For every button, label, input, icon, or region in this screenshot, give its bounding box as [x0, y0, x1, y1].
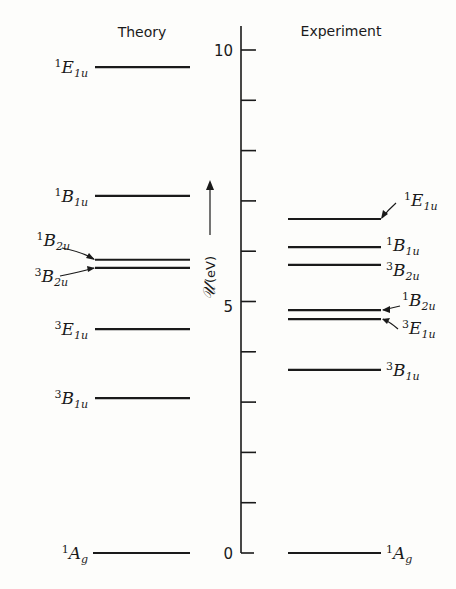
state-label-1B2u: 1B2u: [36, 230, 70, 253]
state-label-3E1u: 3E1u: [402, 318, 436, 341]
state-label-3B1u: 3B1u: [54, 388, 88, 411]
tick-label-0: 0: [223, 545, 233, 563]
state-label-1E1u: 1E1u: [54, 57, 88, 80]
energy-unit: (eV): [203, 256, 218, 283]
state-label-1B1u: 1B1u: [386, 235, 420, 258]
state-label-3B2u: 3B2u: [34, 266, 68, 289]
tick-label-5: 5: [223, 298, 233, 316]
energy-axis: 10 5 0 𝒰(eV): [199, 26, 256, 563]
axis-up-arrow-icon: [206, 180, 214, 235]
state-label-3E1u: 3E1u: [54, 319, 88, 342]
state-label-3B1u: 3B1u: [386, 360, 420, 383]
experiment-levels: 1E1u1B1u3B2u1B2u3E1u3B1u1Ag: [288, 190, 438, 566]
state-label-1B1u: 1B1u: [54, 186, 88, 209]
state-label-1Ag: 1Ag: [62, 543, 88, 566]
state-label-3B2u: 3B2u: [386, 260, 420, 283]
state-label-1Ag: 1Ag: [386, 543, 412, 566]
state-label-1E1u: 1E1u: [404, 190, 438, 213]
axis-label: 𝒰(eV): [199, 256, 219, 300]
theory-levels: 1E1u1B1u1B2u3B2u3E1u3B1u1Ag: [34, 57, 190, 566]
experiment-title: Experiment: [301, 23, 382, 39]
svg-text:𝒰(eV): 𝒰(eV): [199, 256, 219, 300]
tick-label-10: 10: [214, 42, 233, 60]
energy-level-diagram: Theory Experiment 10 5 0 𝒰(eV) 1E1u1B1u1…: [0, 0, 456, 589]
state-label-1B2u: 1B2u: [402, 290, 436, 313]
theory-title: Theory: [117, 24, 167, 40]
